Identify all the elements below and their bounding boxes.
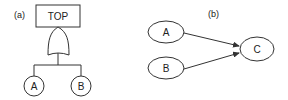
basic-event-b: B	[71, 76, 91, 96]
node-a-label: A	[163, 27, 170, 38]
edge-b-to-c	[184, 53, 239, 69]
panel-b-label: (b)	[208, 9, 219, 19]
diagram-canvas: (a) TOP A B (b) A B	[0, 0, 288, 100]
node-c-label: C	[253, 44, 260, 55]
top-event-label: TOP	[48, 11, 69, 22]
basic-event-a: A	[24, 76, 44, 96]
node-b: B	[148, 57, 184, 79]
panel-a-label: (a)	[14, 10, 25, 20]
node-a: A	[148, 21, 184, 43]
or-gate-icon	[48, 27, 69, 55]
edge-a-to-c	[184, 33, 239, 46]
basic-event-a-label: A	[31, 81, 38, 92]
node-c: C	[240, 37, 274, 61]
basic-event-b-label: B	[78, 81, 85, 92]
panel-b-graph: (b) A B C	[148, 9, 274, 79]
node-b-label: B	[163, 63, 170, 74]
top-event-box: TOP	[36, 5, 80, 27]
panel-a-fault-tree: (a) TOP A B	[14, 5, 91, 96]
